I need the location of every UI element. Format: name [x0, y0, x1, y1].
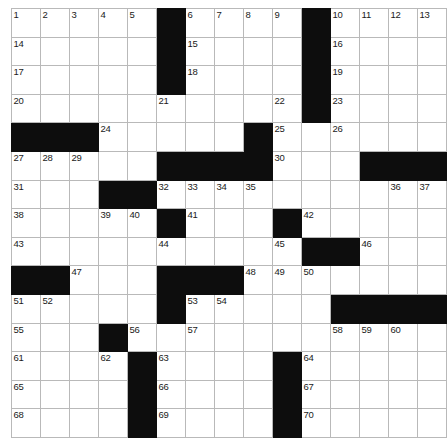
letter-cell[interactable]: 31	[12, 180, 41, 209]
letter-cell[interactable]	[99, 37, 128, 66]
letter-cell[interactable]	[418, 123, 447, 152]
letter-cell[interactable]: 57	[186, 323, 215, 352]
letter-cell[interactable]	[331, 409, 360, 438]
letter-cell[interactable]: 39	[99, 209, 128, 238]
letter-cell[interactable]	[389, 37, 418, 66]
letter-cell[interactable]	[418, 66, 447, 95]
letter-cell[interactable]	[41, 209, 70, 238]
letter-cell[interactable]: 12	[389, 9, 418, 38]
letter-cell[interactable]: 18	[186, 66, 215, 95]
letter-cell[interactable]: 42	[302, 209, 331, 238]
letter-cell[interactable]	[128, 37, 157, 66]
letter-cell[interactable]	[302, 151, 331, 180]
letter-cell[interactable]: 62	[99, 352, 128, 381]
letter-cell[interactable]	[331, 266, 360, 295]
letter-cell[interactable]: 69	[157, 409, 186, 438]
letter-cell[interactable]	[128, 294, 157, 323]
letter-cell[interactable]: 29	[70, 151, 99, 180]
letter-cell[interactable]: 48	[244, 266, 273, 295]
letter-cell[interactable]	[70, 66, 99, 95]
letter-cell[interactable]	[418, 352, 447, 381]
letter-cell[interactable]	[41, 180, 70, 209]
letter-cell[interactable]: 15	[186, 37, 215, 66]
letter-cell[interactable]	[331, 209, 360, 238]
letter-cell[interactable]: 21	[157, 94, 186, 123]
letter-cell[interactable]	[389, 409, 418, 438]
letter-cell[interactable]: 68	[12, 409, 41, 438]
letter-cell[interactable]	[186, 352, 215, 381]
letter-cell[interactable]	[128, 66, 157, 95]
letter-cell[interactable]	[215, 209, 244, 238]
letter-cell[interactable]	[360, 66, 389, 95]
letter-cell[interactable]: 53	[186, 294, 215, 323]
letter-cell[interactable]: 17	[12, 66, 41, 95]
letter-cell[interactable]	[418, 380, 447, 409]
letter-cell[interactable]: 67	[302, 380, 331, 409]
letter-cell[interactable]: 1	[12, 9, 41, 38]
letter-cell[interactable]: 8	[244, 9, 273, 38]
letter-cell[interactable]: 40	[128, 209, 157, 238]
letter-cell[interactable]	[302, 323, 331, 352]
letter-cell[interactable]	[331, 151, 360, 180]
letter-cell[interactable]	[70, 180, 99, 209]
letter-cell[interactable]	[215, 66, 244, 95]
letter-cell[interactable]	[128, 237, 157, 266]
letter-cell[interactable]: 3	[70, 9, 99, 38]
letter-cell[interactable]	[41, 94, 70, 123]
letter-cell[interactable]: 34	[215, 180, 244, 209]
letter-cell[interactable]: 49	[273, 266, 302, 295]
letter-cell[interactable]: 24	[99, 123, 128, 152]
letter-cell[interactable]	[215, 237, 244, 266]
letter-cell[interactable]	[99, 151, 128, 180]
letter-cell[interactable]: 65	[12, 380, 41, 409]
letter-cell[interactable]	[128, 94, 157, 123]
letter-cell[interactable]	[41, 237, 70, 266]
letter-cell[interactable]: 64	[302, 352, 331, 381]
letter-cell[interactable]	[41, 323, 70, 352]
letter-cell[interactable]	[70, 323, 99, 352]
letter-cell[interactable]: 51	[12, 294, 41, 323]
letter-cell[interactable]	[302, 123, 331, 152]
letter-cell[interactable]	[70, 352, 99, 381]
letter-cell[interactable]: 23	[331, 94, 360, 123]
letter-cell[interactable]	[331, 180, 360, 209]
letter-cell[interactable]	[418, 94, 447, 123]
letter-cell[interactable]	[360, 409, 389, 438]
letter-cell[interactable]: 32	[157, 180, 186, 209]
letter-cell[interactable]: 46	[360, 237, 389, 266]
letter-cell[interactable]: 55	[12, 323, 41, 352]
letter-cell[interactable]	[389, 66, 418, 95]
letter-cell[interactable]: 35	[244, 180, 273, 209]
letter-cell[interactable]	[186, 237, 215, 266]
letter-cell[interactable]	[41, 37, 70, 66]
letter-cell[interactable]	[389, 209, 418, 238]
letter-cell[interactable]: 27	[12, 151, 41, 180]
letter-cell[interactable]	[360, 123, 389, 152]
letter-cell[interactable]: 36	[389, 180, 418, 209]
letter-cell[interactable]	[418, 409, 447, 438]
letter-cell[interactable]	[244, 380, 273, 409]
letter-cell[interactable]: 58	[331, 323, 360, 352]
letter-cell[interactable]: 60	[389, 323, 418, 352]
letter-cell[interactable]	[99, 94, 128, 123]
letter-cell[interactable]: 26	[331, 123, 360, 152]
letter-cell[interactable]: 63	[157, 352, 186, 381]
letter-cell[interactable]	[244, 94, 273, 123]
letter-cell[interactable]: 10	[331, 9, 360, 38]
letter-cell[interactable]: 14	[12, 37, 41, 66]
letter-cell[interactable]	[331, 380, 360, 409]
letter-cell[interactable]	[215, 123, 244, 152]
letter-cell[interactable]	[70, 94, 99, 123]
letter-cell[interactable]	[389, 237, 418, 266]
letter-cell[interactable]: 19	[331, 66, 360, 95]
letter-cell[interactable]	[244, 294, 273, 323]
letter-cell[interactable]	[99, 266, 128, 295]
letter-cell[interactable]	[360, 352, 389, 381]
letter-cell[interactable]	[186, 123, 215, 152]
letter-cell[interactable]	[244, 237, 273, 266]
letter-cell[interactable]	[360, 209, 389, 238]
letter-cell[interactable]	[389, 123, 418, 152]
letter-cell[interactable]	[360, 94, 389, 123]
letter-cell[interactable]: 7	[215, 9, 244, 38]
letter-cell[interactable]	[99, 237, 128, 266]
